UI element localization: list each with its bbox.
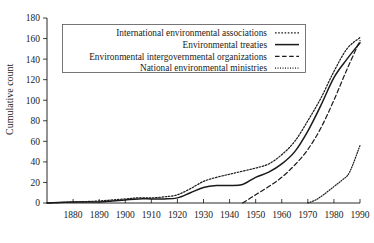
- x-tick-label: 1970: [298, 210, 317, 220]
- legend: International environmental associations…: [63, 25, 306, 74]
- x-tick-label: 1910: [142, 210, 161, 220]
- x-tick-label: 1900: [116, 210, 135, 220]
- line-chart: 020406080100120140160180 188018901900191…: [0, 0, 374, 243]
- x-tick-label: 1950: [246, 210, 265, 220]
- x-tick-label: 1930: [194, 210, 213, 220]
- chart-figure: 020406080100120140160180 188018901900191…: [0, 0, 374, 243]
- y-tick-label: 120: [26, 75, 41, 85]
- y-tick-label: 80: [31, 116, 41, 126]
- legend-label: International environmental associations: [116, 28, 267, 38]
- y-tick-label: 140: [26, 55, 41, 65]
- x-tick-label: 1880: [64, 210, 83, 220]
- y-tick-label: 20: [31, 178, 41, 188]
- y-tick-label: 180: [26, 13, 41, 23]
- y-tick-label: 40: [31, 157, 41, 167]
- y-axis-ticks: 020406080100120140160180: [26, 13, 47, 208]
- x-tick-label: 1990: [351, 210, 370, 220]
- x-tick-label: 1920: [168, 210, 187, 220]
- y-tick-label: 60: [31, 137, 41, 147]
- x-axis-ticks: 1880189019001910192019301940195019601970…: [64, 199, 370, 220]
- x-tick-label: 1980: [324, 210, 343, 220]
- x-tick-label: 1940: [220, 210, 239, 220]
- legend-label: National environmental ministries: [140, 63, 267, 73]
- y-tick-label: 160: [26, 34, 41, 44]
- y-tick-label: 100: [26, 96, 41, 106]
- y-tick-label: 0: [35, 198, 40, 208]
- series-line: [308, 145, 360, 203]
- x-tick-label: 1890: [90, 210, 109, 220]
- legend-label: Environmental treaties: [183, 40, 268, 50]
- x-tick-label: 1960: [272, 210, 291, 220]
- legend-label: Environmental intergovernmental organiza…: [89, 52, 267, 62]
- y-axis-title: Cumulative count: [4, 63, 15, 135]
